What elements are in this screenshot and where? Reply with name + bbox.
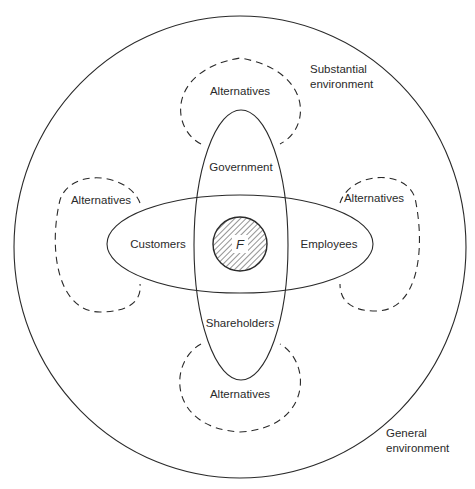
stakeholder-diagram: F Government Shareholders Customers Empl… — [0, 0, 475, 489]
alternatives-top-label: Alternatives — [210, 85, 270, 97]
stakeholder-employees-label: Employees — [301, 238, 358, 250]
substantial-environment-label-line2: environment — [310, 78, 374, 90]
alternatives-top-boundary — [181, 58, 301, 144]
alternatives-bottom-label: Alternatives — [210, 388, 270, 400]
stakeholder-government-label: Government — [209, 161, 273, 173]
alternatives-left-label: Alternatives — [71, 194, 131, 206]
general-environment-label-line1: General — [386, 427, 427, 439]
stakeholder-shareholders-label: Shareholders — [206, 317, 275, 329]
general-environment-label-line2: environment — [386, 442, 450, 454]
alternatives-right-label: Alternatives — [344, 192, 404, 204]
stakeholder-customers-label: Customers — [130, 238, 186, 250]
substantial-environment-label-line1: Substantial — [310, 63, 367, 75]
firm-label: F — [236, 237, 245, 252]
